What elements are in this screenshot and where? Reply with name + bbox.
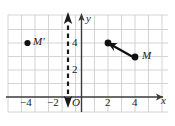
point-label-m: M <box>142 50 151 61</box>
x-tick-label-neg2: −2 <box>47 97 59 108</box>
point-m-prime-dot <box>24 40 30 46</box>
x-tick-label-4: 4 <box>132 97 138 108</box>
coordinate-plane-figure: M' M y x O −4 −2 2 4 2 4 <box>0 0 175 126</box>
y-tick-label-4: 4 <box>72 37 78 48</box>
origin-label: O <box>72 97 80 108</box>
x-axis-label: x <box>161 95 166 106</box>
reflection-line-up-arrowhead <box>64 12 72 24</box>
y-axis-label: y <box>86 13 91 24</box>
x-tick-label-neg4: −4 <box>20 97 32 108</box>
point-label-m-prime: M' <box>33 36 45 47</box>
y-tick-label-2: 2 <box>72 64 78 75</box>
x-tick-label-2: 2 <box>105 97 111 108</box>
reflection-line <box>64 12 72 108</box>
point-image-endpoint-dot <box>105 40 112 47</box>
point-m-dot <box>132 54 139 61</box>
translation-arrow <box>108 43 134 57</box>
